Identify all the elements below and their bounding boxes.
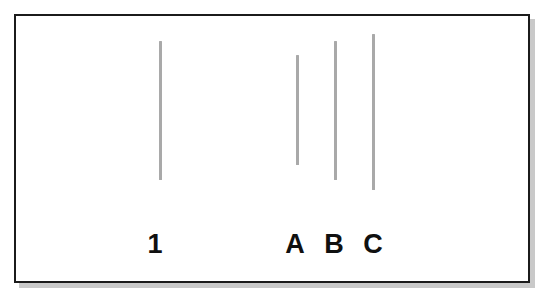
stimulus-line-c xyxy=(372,34,375,190)
line-label-b: B xyxy=(323,231,345,258)
stimulus-plot-area: 1 A B C xyxy=(0,0,547,299)
stimulus-line-1 xyxy=(159,41,162,180)
line-label-c: C xyxy=(362,231,384,258)
stimulus-line-a xyxy=(296,55,299,165)
line-label-a: A xyxy=(284,231,306,258)
stimulus-line-b xyxy=(334,41,337,180)
figure-root: 1 A B C xyxy=(0,0,547,299)
line-label-1: 1 xyxy=(144,231,166,258)
